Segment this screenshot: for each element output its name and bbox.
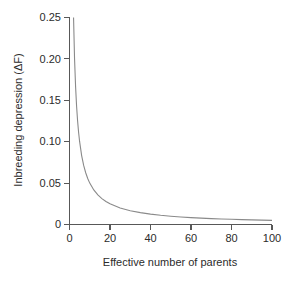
x-tick-label-1: 20 (104, 232, 116, 244)
x-tick-label-0: 0 (66, 232, 72, 244)
x-tick-label-5: 100 (263, 232, 281, 244)
y-tick-label-1: 0.05 (40, 177, 61, 189)
y-tick-label-5: 0.25 (40, 11, 61, 23)
chart-plot-area: 0 0.05 0.10 0.15 0.20 0.25 0 20 40 60 80… (0, 0, 296, 281)
x-tick-label-2: 40 (144, 232, 156, 244)
y-tick-label-3: 0.15 (40, 94, 61, 106)
x-axis-title: Effective number of parents (103, 256, 238, 268)
y-tick-label-0: 0 (55, 218, 61, 230)
y-tick-label-4: 0.20 (40, 53, 61, 65)
y-tick-label-2: 0.10 (40, 135, 61, 147)
y-axis-title: Inbreeding depression (ΔF) (12, 53, 24, 186)
x-tick-label-4: 80 (225, 232, 237, 244)
x-tick-label-3: 60 (185, 232, 197, 244)
chart-figure: 0 0.05 0.10 0.15 0.20 0.25 0 20 40 60 80… (0, 0, 296, 281)
data-curve-inbreeding-depression (74, 18, 272, 221)
